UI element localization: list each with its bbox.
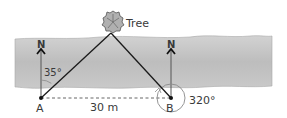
point-b (169, 96, 173, 100)
north-label-a: N (37, 39, 45, 50)
triangulation-diagram: Tree N N 35° A B 30 m 320° (0, 0, 287, 118)
tree-icon (102, 11, 124, 33)
angle-label-b: 320° (189, 94, 216, 107)
river (15, 36, 272, 89)
distance-label: 30 m (90, 101, 118, 114)
point-a-label: A (36, 102, 44, 115)
north-label-b: N (167, 39, 175, 50)
point-a (39, 96, 43, 100)
point-b-label: B (166, 102, 174, 115)
angle-label-a: 35° (44, 67, 62, 78)
tree-label: Tree (125, 17, 149, 30)
